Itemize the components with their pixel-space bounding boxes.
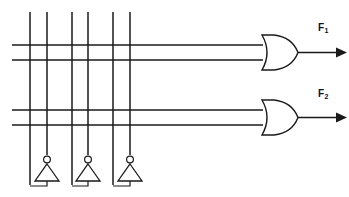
output-label-f1-subscript: 1 — [325, 27, 329, 34]
or-gate-1-body — [262, 35, 298, 70]
inverter-2-bubble-icon — [85, 156, 92, 163]
horizontal-product-lines — [12, 45, 263, 125]
inverter-3 — [113, 156, 142, 186]
inverter-1-bubble-icon — [44, 156, 51, 163]
inverter-1-triangle — [35, 164, 59, 181]
output-label-f2-subscript: 2 — [325, 93, 329, 100]
output-label-f2-text: F — [318, 88, 324, 99]
logic-circuit-diagram: F1 F2 — [0, 0, 349, 197]
inverter-2-output-wire — [72, 181, 88, 186]
inverter-3-triangle — [118, 164, 142, 181]
inverter-3-bubble-icon — [127, 156, 134, 163]
inverter-1-output-wire — [30, 181, 47, 186]
or-gate-2-output-arrowhead — [336, 113, 347, 123]
inverter-2-triangle — [76, 164, 100, 181]
or-gate-1-output-arrowhead — [336, 48, 347, 58]
or-gate-2-body — [262, 100, 298, 135]
or-gate-1 — [262, 35, 298, 70]
inverter-1 — [30, 156, 59, 186]
or-gate-2 — [262, 100, 298, 135]
output-label-f1: F1 — [318, 23, 328, 33]
circuit-canvas — [0, 0, 349, 197]
inverter-3-output-wire — [113, 181, 130, 186]
output-label-f1-text: F — [318, 22, 324, 33]
inverter-2 — [72, 156, 100, 186]
output-label-f2: F2 — [318, 89, 328, 99]
